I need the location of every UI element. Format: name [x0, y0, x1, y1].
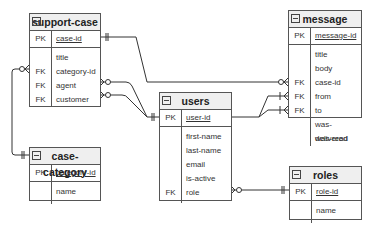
attribute-list: FK FK FK title body case-id from to was-… [289, 45, 361, 146]
link-users-to [259, 110, 288, 117]
field-name[interactable]: title [56, 51, 96, 65]
key-label [160, 144, 181, 158]
field-name[interactable]: role [186, 186, 222, 200]
entity-title: roles [313, 169, 338, 181]
field-name[interactable]: from [315, 90, 361, 104]
link-users-customer [100, 95, 147, 117]
link-category-case [12, 69, 29, 155]
collapse-icon[interactable] [162, 96, 171, 105]
key-label: FK [30, 79, 51, 93]
field-name: role-id [312, 184, 338, 200]
field-name[interactable]: was-delivered [315, 118, 361, 132]
key-label [289, 132, 310, 146]
key-label [160, 130, 181, 144]
entity-case-category[interactable]: case-category PK category-id name [29, 147, 101, 201]
er-diagram-canvas: support-case PK case-id FK FK FK title c… [0, 0, 369, 230]
key-label [289, 118, 310, 132]
primary-key-row[interactable]: PK case-id [30, 31, 100, 48]
field-name[interactable]: is-active [186, 172, 222, 186]
field-name[interactable]: name [316, 204, 336, 218]
key-label [160, 158, 181, 172]
field-name[interactable]: email [186, 158, 222, 172]
key-label [289, 48, 310, 62]
link-case-message [100, 37, 288, 82]
field-name[interactable]: name [56, 185, 76, 199]
entity-users[interactable]: users PK user-id FK first-name last-name… [159, 92, 232, 201]
key-label [160, 172, 181, 186]
key-label: FK [30, 65, 51, 79]
entity-title: message [303, 13, 348, 25]
key-label [30, 51, 51, 65]
attribute-list: FK FK FK title category-id agent custome… [30, 48, 100, 107]
key-label: PK [30, 31, 52, 47]
field-name: user-id [182, 110, 210, 126]
entity-title: case-category [43, 150, 87, 178]
entity-header[interactable]: case-category [30, 148, 100, 165]
primary-key-row[interactable]: PK role-id [290, 184, 361, 201]
field-name: case-id [52, 31, 82, 47]
field-name[interactable]: title [315, 48, 361, 62]
attribute-list: FK first-name last-name email is-active … [160, 127, 231, 203]
field-name[interactable]: agent [56, 79, 96, 93]
collapse-icon[interactable] [291, 14, 300, 23]
key-label [290, 204, 311, 218]
key-label: FK [160, 186, 181, 200]
entity-title: users [181, 95, 209, 107]
primary-key-row[interactable]: PK message-id [289, 28, 361, 45]
key-label: PK [290, 184, 312, 200]
collapse-icon[interactable] [292, 170, 301, 179]
collapse-icon[interactable] [32, 151, 41, 160]
key-label: PK [160, 110, 182, 126]
primary-key-row[interactable]: PK user-id [160, 110, 231, 127]
field-name[interactable]: to [315, 104, 361, 118]
entity-header[interactable]: users [160, 93, 231, 110]
link-users-from [231, 96, 288, 117]
entity-header[interactable]: message [289, 11, 361, 28]
key-label: FK [289, 90, 310, 104]
field-name: message-id [311, 28, 356, 44]
field-name[interactable]: was-read [315, 132, 361, 146]
key-label: FK [289, 104, 310, 118]
field-name[interactable]: first-name [186, 130, 222, 144]
field-name[interactable]: case-id [315, 76, 361, 90]
entity-title: support-case [32, 16, 98, 28]
key-label [289, 62, 310, 76]
field-name[interactable]: body [315, 62, 361, 76]
collapse-icon[interactable] [32, 17, 41, 26]
field-name[interactable]: category-id [56, 65, 96, 79]
entity-header[interactable]: support-case [30, 14, 100, 31]
key-label: FK [30, 93, 51, 107]
entity-support-case[interactable]: support-case PK case-id FK FK FK title c… [29, 13, 101, 107]
key-label: PK [289, 28, 311, 44]
field-name[interactable]: last-name [186, 144, 222, 158]
entity-roles[interactable]: roles PK role-id name [289, 166, 362, 220]
key-label [30, 185, 51, 199]
field-name[interactable]: customer [56, 93, 96, 107]
attribute-list: name [30, 182, 100, 204]
key-label: FK [289, 76, 310, 90]
entity-header[interactable]: roles [290, 167, 361, 184]
attribute-list: name [290, 201, 361, 223]
entity-message[interactable]: message PK message-id FK FK FK title bod… [288, 10, 362, 118]
